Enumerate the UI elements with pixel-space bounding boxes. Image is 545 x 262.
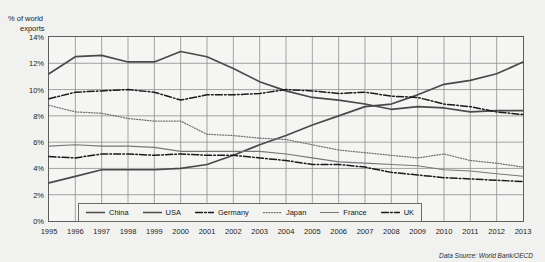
line-chart-svg	[48, 36, 524, 222]
legend-item-uk[interactable]: UK	[381, 208, 414, 217]
x-tick-2012: 2012	[488, 227, 505, 236]
x-tick-2003: 2003	[251, 227, 268, 236]
x-tick-2004: 2004	[278, 227, 295, 236]
x-tick-2010: 2010	[436, 227, 453, 236]
y-axis-title-line1: % of world	[8, 14, 43, 23]
x-tick-1996: 1996	[67, 227, 84, 236]
legend-swatch-uk-icon	[381, 208, 400, 217]
legend-swatch-usa-icon	[143, 208, 162, 217]
data-source-note: Data Source: World Bank/OECD	[439, 252, 533, 259]
x-tick-2011: 2011	[462, 227, 478, 236]
x-tick-2009: 2009	[409, 227, 426, 236]
legend-label: USA	[166, 208, 181, 217]
y-tick-4: 4%	[4, 164, 44, 173]
legend-swatch-china-icon	[86, 208, 105, 217]
legend-swatch-germany-icon	[195, 208, 214, 217]
legend-label: China	[109, 208, 129, 217]
legend-swatch-japan-icon	[263, 208, 282, 217]
x-tick-1999: 1999	[146, 227, 163, 236]
legend-item-france[interactable]: France	[320, 208, 366, 217]
x-tick-1997: 1997	[93, 227, 110, 236]
x-tick-1995: 1995	[41, 227, 58, 236]
legend-item-china[interactable]: China	[86, 208, 129, 217]
y-tick-6: 6%	[4, 138, 44, 147]
legend-label: UK	[404, 208, 414, 217]
legend-item-usa[interactable]: USA	[143, 208, 181, 217]
chart-legend: ChinaUSAGermanyJapanFranceUK	[78, 203, 422, 222]
legend-item-germany[interactable]: Germany	[195, 208, 249, 217]
chart-page: % of world exports 14%12%10%8%6%4%2%0% 1…	[0, 0, 545, 262]
y-tick-14: 14%	[4, 33, 44, 42]
legend-item-japan[interactable]: Japan	[263, 208, 306, 217]
y-tick-12: 12%	[4, 59, 44, 68]
x-tick-2005: 2005	[304, 227, 321, 236]
y-tick-8: 8%	[4, 111, 44, 120]
legend-label: Germany	[218, 208, 249, 217]
legend-swatch-france-icon	[320, 208, 339, 217]
x-tick-2007: 2007	[357, 227, 374, 236]
x-tick-2002: 2002	[225, 227, 242, 236]
x-tick-2000: 2000	[172, 227, 189, 236]
legend-label: France	[343, 208, 366, 217]
plot-area	[48, 36, 524, 222]
x-tick-2008: 2008	[383, 227, 400, 236]
x-tick-2001: 2001	[199, 227, 216, 236]
x-tick-2013: 2013	[515, 227, 532, 236]
x-tick-2006: 2006	[330, 227, 347, 236]
y-tick-2: 2%	[4, 190, 44, 199]
y-tick-0: 0%	[4, 217, 44, 226]
y-tick-10: 10%	[4, 85, 44, 94]
legend-label: Japan	[286, 208, 306, 217]
x-tick-1998: 1998	[120, 227, 137, 236]
